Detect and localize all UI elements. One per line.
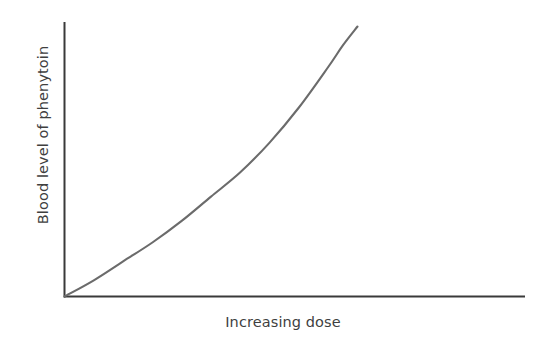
x-axis-label: Increasing dose [183,312,383,332]
y-axis-label: Blood level of phenytoin [33,0,53,275]
phenytoin-curve [65,27,358,297]
chart-plot-area [0,0,560,351]
chart-figure: Blood level of phenytoin Increasing dose [0,0,560,351]
